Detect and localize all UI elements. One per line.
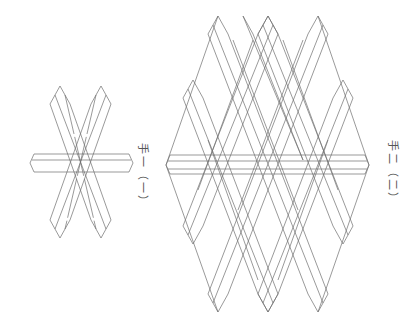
figure-2-lattice [166,16,369,312]
diagram-canvas [0,0,419,329]
figure-2-caption: 手二（二） [386,140,402,205]
figure-1-star [30,86,133,238]
figure-1-caption: 手一（一） [136,143,152,208]
